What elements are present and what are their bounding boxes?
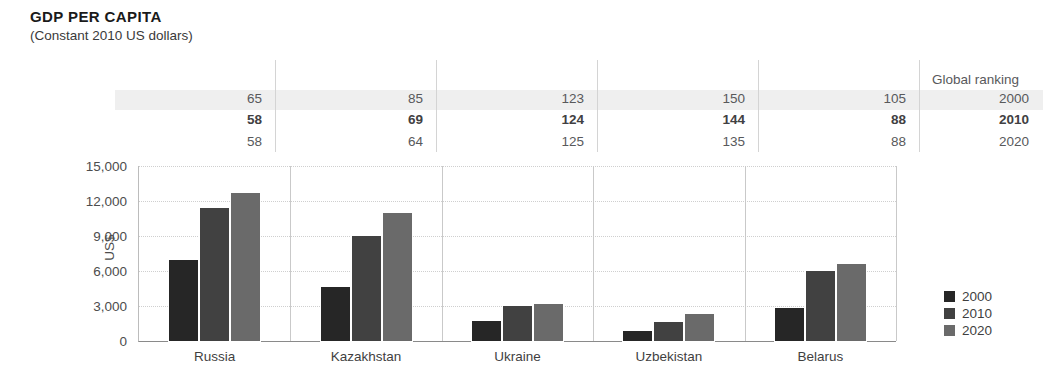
ranking-value-ukraine-2010: 124 (437, 109, 598, 130)
page-subtitle: (Constant 2010 US dollars) (30, 28, 193, 43)
y-tick-3000: 3,000 (22, 299, 127, 314)
ranking-value-uzbekistan-2020: 135 (598, 131, 759, 152)
bar-belarus-2020 (837, 264, 866, 341)
legend-item-2010: 2010 (944, 305, 992, 321)
legend-label-2010: 2010 (962, 306, 992, 321)
legend-label-2000: 2000 (962, 289, 992, 304)
ranking-grid: Global ranking65851231501052000586912414… (115, 60, 1043, 152)
ranking-year-label-2010: 2010 (920, 109, 1043, 130)
ranking-value-kazakhstan-2020: 64 (276, 131, 437, 152)
bar-group-uzbekistan (593, 166, 744, 341)
y-tick-15000: 15,000 (22, 159, 127, 174)
ranking-value-belarus-2010: 88 (759, 109, 920, 130)
bar-group-ukraine (442, 166, 593, 341)
ranking-year-label-2000: 2000 (920, 88, 1043, 109)
legend-item-2020: 2020 (944, 322, 992, 338)
ranking-header-spacer (115, 60, 276, 88)
bar-russia-2020 (231, 193, 260, 341)
ranking-value-kazakhstan-2010: 69 (276, 109, 437, 130)
bar-kazakhstan-2010 (352, 236, 381, 341)
y-tick-6000: 6,000 (22, 264, 127, 279)
bar-uzbekistan-2020 (685, 314, 714, 341)
legend-swatch-icon-2010 (944, 308, 955, 319)
bar-russia-2010 (200, 208, 229, 341)
y-tick-9000: 9,000 (22, 229, 127, 244)
legend-swatch-icon-2020 (944, 325, 955, 336)
legend-item-2000: 2000 (944, 288, 992, 304)
ranking-header-spacer (276, 60, 437, 88)
bar-kazakhstan-2000 (321, 287, 350, 341)
y-tick-12000: 12,000 (22, 194, 127, 209)
bar-group-russia (139, 166, 290, 341)
legend-label-2020: 2020 (962, 323, 992, 338)
ranking-header-spacer (598, 60, 759, 88)
chart-legend: 200020102020 (944, 288, 992, 339)
bar-ukraine-2010 (503, 306, 532, 341)
ranking-header-spacer (759, 60, 920, 88)
bar-belarus-2000 (775, 308, 804, 341)
category-label-uzbekistan: Uzbekistan (593, 349, 744, 364)
ranking-value-uzbekistan-2010: 144 (598, 109, 759, 130)
bar-uzbekistan-2000 (623, 331, 652, 342)
global-ranking-table: Global ranking65851231501052000586912414… (115, 60, 1043, 152)
category-label-belarus: Belarus (745, 349, 896, 364)
legend-swatch-icon-2000 (944, 291, 955, 302)
bar-chart-plot-area: US$ 03,0006,0009,00012,00015,000 RussiaK… (138, 166, 896, 342)
ranking-value-russia-2000: 65 (115, 88, 276, 109)
ranking-header-spacer (437, 60, 598, 88)
ranking-value-uzbekistan-2000: 150 (598, 88, 759, 109)
category-label-kazakhstan: Kazakhstan (290, 349, 441, 364)
y-tick-0: 0 (22, 334, 127, 349)
plot-right-edge (896, 166, 897, 341)
ranking-value-ukraine-2000: 123 (437, 88, 598, 109)
ranking-year-label-2020: 2020 (920, 131, 1043, 152)
bar-group-belarus (745, 166, 896, 341)
bar-belarus-2010 (806, 271, 835, 341)
bar-uzbekistan-2010 (654, 322, 683, 341)
ranking-value-belarus-2000: 105 (759, 88, 920, 109)
bar-russia-2000 (169, 260, 198, 341)
bar-ukraine-2020 (534, 304, 563, 341)
page-title: GDP PER CAPITA (30, 8, 162, 25)
ranking-header-label: Global ranking (920, 60, 1043, 88)
ranking-value-kazakhstan-2000: 85 (276, 88, 437, 109)
bar-group-kazakhstan (290, 166, 441, 341)
category-label-russia: Russia (139, 349, 290, 364)
ranking-value-russia-2010: 58 (115, 109, 276, 130)
category-label-ukraine: Ukraine (442, 349, 593, 364)
ranking-value-ukraine-2020: 125 (437, 131, 598, 152)
bar-ukraine-2000 (472, 321, 501, 341)
bar-kazakhstan-2020 (383, 213, 412, 341)
ranking-value-belarus-2020: 88 (759, 131, 920, 152)
ranking-value-russia-2020: 58 (115, 131, 276, 152)
